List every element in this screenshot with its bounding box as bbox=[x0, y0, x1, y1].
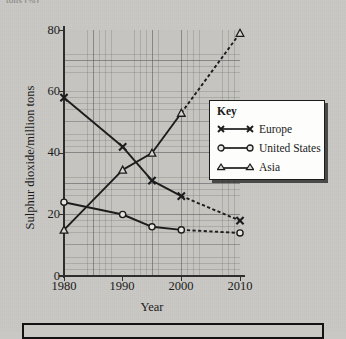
legend-label-united-states: United States bbox=[259, 142, 321, 154]
legend-item-united-states[interactable]: United States bbox=[217, 138, 324, 157]
bottom-answer-bar bbox=[22, 323, 324, 339]
series-segment-europe bbox=[152, 181, 181, 196]
triangle-marker-icon bbox=[217, 160, 254, 174]
series-segment-europe bbox=[123, 147, 152, 181]
y-tick-20: 20 bbox=[34, 209, 60, 219]
cross-marker-icon bbox=[217, 122, 254, 136]
legend-label-asia: Asia bbox=[259, 161, 280, 173]
x-axis-tick-mark bbox=[122, 276, 123, 281]
series-segment-united-states bbox=[123, 215, 152, 227]
series-segment-europe bbox=[64, 98, 123, 147]
data-point-europe bbox=[178, 192, 185, 199]
legend-item-europe[interactable]: Europe bbox=[217, 119, 324, 138]
legend-item-asia[interactable]: Asia bbox=[217, 157, 324, 176]
data-point-united-states bbox=[178, 227, 184, 233]
data-point-europe bbox=[236, 217, 243, 224]
x-tick-2000: 2000 bbox=[158, 279, 204, 294]
legend-title: Key bbox=[217, 105, 324, 118]
data-point-asia bbox=[178, 109, 186, 116]
y-tick-60: 60 bbox=[34, 86, 60, 96]
series-segment-europe bbox=[181, 196, 240, 221]
series-segment-united-states bbox=[181, 230, 240, 233]
x-axis-label: Year bbox=[64, 300, 240, 315]
y-tick-80: 80 bbox=[34, 25, 60, 35]
data-point-united-states bbox=[237, 230, 243, 236]
x-tick-2010: 2010 bbox=[217, 279, 263, 294]
x-axis-tick-mark bbox=[64, 276, 65, 281]
series-segment-united-states bbox=[64, 202, 123, 214]
data-point-europe bbox=[119, 143, 126, 150]
legend-box: Key Europe United States Asia bbox=[209, 100, 325, 180]
series-segment-asia bbox=[152, 113, 181, 153]
data-point-united-states bbox=[61, 199, 67, 205]
x-tick-1980: 1980 bbox=[41, 279, 87, 294]
data-point-europe bbox=[60, 94, 67, 101]
legend-label-europe: Europe bbox=[259, 123, 292, 135]
data-point-asia bbox=[119, 166, 127, 173]
circle-marker-icon bbox=[217, 141, 254, 155]
series-segment-asia bbox=[64, 170, 123, 230]
x-axis-tick-mark bbox=[181, 276, 182, 281]
data-point-europe bbox=[148, 177, 155, 184]
data-point-united-states bbox=[149, 224, 155, 230]
x-tick-1990: 1990 bbox=[99, 279, 145, 294]
series-segment-united-states bbox=[152, 227, 181, 230]
data-point-united-states bbox=[120, 211, 126, 217]
x-axis-tick-mark bbox=[240, 276, 241, 281]
data-point-asia bbox=[236, 29, 244, 36]
series-segment-asia bbox=[123, 153, 152, 170]
y-tick-40: 40 bbox=[34, 147, 60, 157]
